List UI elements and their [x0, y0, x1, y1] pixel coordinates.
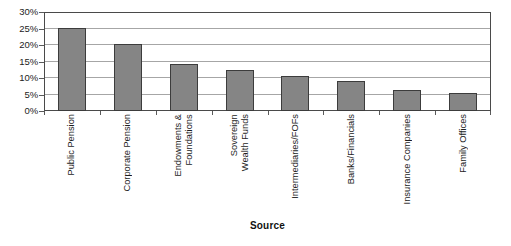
- bar: [337, 81, 365, 111]
- category-label-text: Family Offices: [458, 114, 469, 173]
- category-label-text: Banks/Financials: [346, 114, 357, 184]
- x-axis-category-label: Family Offices: [435, 114, 491, 210]
- x-axis-category-label: Intermediaries/FOFs: [268, 114, 324, 210]
- y-axis-tick-mark: [39, 62, 44, 63]
- y-axis-tick-mark: [39, 45, 44, 46]
- x-axis-category-labels: Public PensionCorporate PensionEndowment…: [44, 114, 491, 214]
- bar: [58, 28, 86, 111]
- bar: [114, 44, 142, 111]
- bar: [281, 76, 309, 111]
- category-label-line: Insurance Companies: [402, 114, 413, 204]
- category-label-text: Insurance Companies: [402, 114, 413, 204]
- x-axis-category-label: Corporate Pension: [100, 114, 156, 210]
- category-label-line: Public Pension: [66, 114, 77, 176]
- y-axis-tick-label: 5%: [0, 89, 38, 100]
- bar-slot: [393, 12, 421, 111]
- category-label-line: Endowments &: [173, 114, 184, 177]
- category-label-line: Sovereign: [229, 114, 240, 171]
- category-label-line: Foundations: [184, 114, 195, 177]
- category-label-line: Family Offices: [458, 114, 469, 173]
- y-axis-tick-mark: [39, 111, 44, 112]
- bar: [449, 93, 477, 111]
- y-axis-tick-label: 25%: [0, 23, 38, 34]
- category-label-line: Wealth Funds: [240, 114, 251, 171]
- bar-chart: 0%5%10%15%20%25%30% Public PensionCorpor…: [0, 0, 511, 246]
- bar-slot: [281, 12, 309, 111]
- y-axis-tick-label: 20%: [0, 39, 38, 50]
- category-label-line: Intermediaries/FOFs: [290, 114, 301, 199]
- bar: [226, 70, 254, 111]
- x-axis-title: Source: [44, 220, 491, 231]
- x-axis-category-label: Endowments &Foundations: [156, 114, 212, 210]
- category-label-text: Corporate Pension: [122, 114, 133, 192]
- x-axis-category-label: Public Pension: [44, 114, 100, 210]
- category-label-text: Public Pension: [66, 114, 77, 176]
- x-axis-category-label: Insurance Companies: [379, 114, 435, 210]
- category-label-text: SovereignWealth Funds: [229, 114, 251, 171]
- x-axis-category-label: Banks/Financials: [323, 114, 379, 210]
- y-axis-tick-mark: [39, 95, 44, 96]
- x-axis-category-label: SovereignWealth Funds: [212, 114, 268, 210]
- category-label-text: Intermediaries/FOFs: [290, 114, 301, 199]
- bar-slot: [170, 12, 198, 111]
- category-label-line: Corporate Pension: [122, 114, 133, 192]
- bar-slot: [226, 12, 254, 111]
- bar: [393, 90, 421, 111]
- bar-slot: [337, 12, 365, 111]
- y-axis-tick-mark: [39, 78, 44, 79]
- bar-slot: [449, 12, 477, 111]
- bar-slot: [58, 12, 86, 111]
- bar: [170, 64, 198, 111]
- y-axis-tick-mark: [39, 12, 44, 13]
- y-axis-tick-label: 10%: [0, 72, 38, 83]
- bars-layer: [44, 12, 491, 111]
- y-axis-tick-label: 0%: [0, 105, 38, 116]
- category-label-text: Endowments &Foundations: [173, 114, 195, 177]
- y-axis-tick-label: 30%: [0, 6, 38, 17]
- category-label-line: Banks/Financials: [346, 114, 357, 184]
- bar-slot: [114, 12, 142, 111]
- y-axis-tick-mark: [39, 29, 44, 30]
- y-axis-tick-labels: 0%5%10%15%20%25%30%: [0, 6, 38, 111]
- y-axis-tick-label: 15%: [0, 56, 38, 67]
